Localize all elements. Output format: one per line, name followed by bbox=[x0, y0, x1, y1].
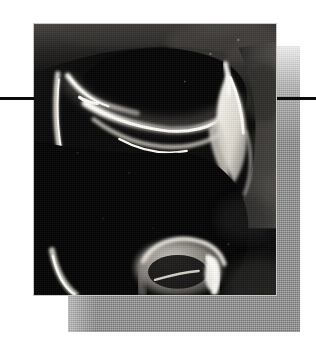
horizontal-rule-right bbox=[277, 97, 316, 100]
figure-root bbox=[0, 0, 316, 347]
mri-knee-sagittal-image bbox=[34, 24, 276, 295]
mri-photo-frame bbox=[33, 23, 277, 296]
horizontal-rule-left bbox=[0, 97, 34, 100]
